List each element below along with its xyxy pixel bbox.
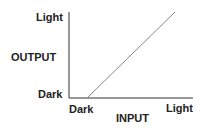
y-tick-light: Light: [36, 12, 63, 23]
y-tick-dark: Dark: [38, 89, 62, 100]
x-tick-light: Light: [166, 103, 193, 114]
response-line: [87, 12, 175, 98]
x-axis-label: INPUT: [116, 113, 149, 124]
y-axis-label: OUTPUT: [11, 52, 56, 63]
x-tick-dark: Dark: [69, 104, 93, 115]
